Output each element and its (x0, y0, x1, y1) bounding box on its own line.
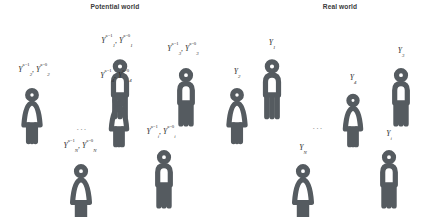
outcome-label: Y2 (234, 68, 241, 76)
outcome-label: Ya=11, Ya=01 (101, 37, 132, 45)
ellipsis-potential-world: ... (76, 122, 87, 132)
panel-title-real-world: Real world (323, 3, 357, 10)
outcome-label: YN (299, 144, 306, 152)
ellipsis-real-world: ... (312, 121, 323, 131)
outcome-label: Ya=1i, Ya=0i (146, 128, 175, 136)
outcome-label: Ya=13, Ya=03 (167, 45, 198, 53)
outcome-label: Ya=12, Ya=02 (18, 66, 49, 74)
outcome-label: Yi (386, 130, 392, 138)
outcome-label: Y3 (398, 47, 405, 55)
outcome-label: Y1 (269, 39, 276, 47)
outcome-label: Ya=1N, Ya=0N (64, 142, 97, 150)
person-icon-subject-4 (338, 94, 368, 149)
panel-title-potential-world: Potential world (91, 3, 140, 10)
outcome-label: Y4 (350, 74, 357, 82)
causal-inference-figure: Potential worldYa=11, Ya=01Ya=12, Ya=02Y… (0, 0, 429, 217)
person-icon-subject-2 (16, 88, 48, 146)
person-icon-subject-n (287, 164, 320, 217)
person-icon-subject-2 (221, 88, 253, 146)
person-icon-subject-1 (255, 59, 289, 121)
person-icon-subject-3 (385, 68, 418, 128)
person-icon-subject-i (148, 150, 181, 210)
person-icon-subject-3 (170, 68, 203, 128)
person-icon-subject-4 (104, 94, 134, 149)
person-icon-subject-i (373, 150, 406, 210)
person-icon-subject-n (65, 164, 98, 217)
outcome-label: Ya=14, Ya=04 (100, 72, 131, 80)
